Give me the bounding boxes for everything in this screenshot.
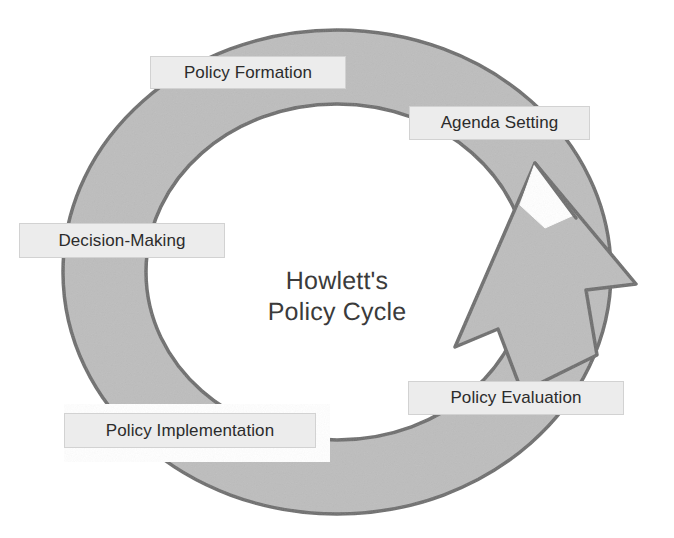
stage-label-policy-implementation-text: Policy Implementation: [106, 422, 274, 440]
stage-label-agenda-setting-text: Agenda Setting: [441, 114, 559, 132]
stage-label-policy-evaluation-text: Policy Evaluation: [450, 389, 581, 407]
stage-label-agenda-setting[interactable]: Agenda Setting: [409, 106, 590, 140]
stage-label-policy-formation[interactable]: Policy Formation: [150, 56, 346, 89]
stage-label-policy-evaluation[interactable]: Policy Evaluation: [408, 381, 624, 415]
stage-label-policy-formation-text: Policy Formation: [184, 64, 312, 82]
diagram-center-title: Howlett's Policy Cycle: [237, 266, 437, 328]
stage-label-decision-making[interactable]: Decision-Making: [19, 223, 225, 258]
stage-label-policy-implementation[interactable]: Policy Implementation: [64, 413, 316, 448]
policy-cycle-diagram: Howlett's Policy Cycle Policy Formation …: [0, 0, 674, 538]
stage-label-decision-making-text: Decision-Making: [58, 232, 185, 250]
